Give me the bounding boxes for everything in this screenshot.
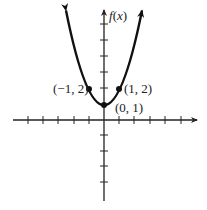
point-label-left: (−1, 2) [53, 81, 89, 96]
y-axis-label: f(x) [109, 8, 127, 23]
point-1-2 [116, 86, 122, 92]
point-vertex [101, 102, 107, 108]
graph-canvas: f(x) (−1, 2) (1, 2) (0, 1) [0, 0, 207, 210]
point-label-vertex: (0, 1) [115, 100, 143, 115]
function-graph: f(x) (−1, 2) (1, 2) (0, 1) [0, 0, 207, 210]
point-label-right: (1, 2) [124, 81, 152, 96]
